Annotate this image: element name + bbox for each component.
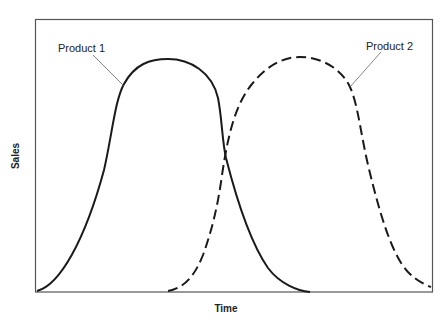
product-2-curve [168, 57, 431, 291]
y-axis-label: Sales [10, 142, 21, 169]
product-1-curve [37, 59, 310, 292]
plot-frame [36, 20, 433, 293]
x-axis-label: Time [214, 303, 238, 314]
product-2-leader-line [350, 52, 381, 87]
product-1-label: Product 1 [58, 42, 105, 54]
product-2-label: Product 2 [366, 40, 413, 52]
product-lifecycle-chart: Product 1 Product 2 Time Sales [0, 0, 444, 322]
product-1-leader-line [93, 55, 124, 86]
